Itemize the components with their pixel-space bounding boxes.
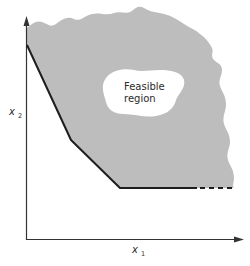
x-axis-label-main: x <box>131 244 138 255</box>
region-label-line2: region <box>124 93 156 104</box>
region-label-line1: Feasible <box>124 81 165 92</box>
y-axis-label: x 2 <box>8 106 22 120</box>
y-axis-label-main: x <box>8 106 15 117</box>
x-axis-label: x 1 <box>131 244 145 258</box>
x-axis-arrowhead <box>234 237 244 243</box>
feasible-region-diagram: Feasible region x 2 x 1 <box>0 0 250 266</box>
y-axis-arrowhead <box>24 16 30 26</box>
x-axis-label-subscript: 1 <box>141 250 145 258</box>
y-axis-label-subscript: 2 <box>18 112 22 120</box>
